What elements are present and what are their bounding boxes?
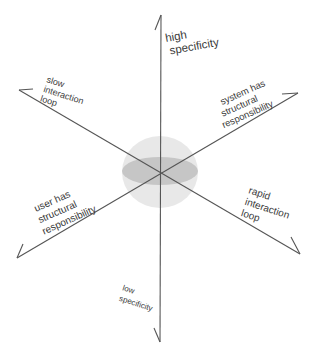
label-high-specificity: high specificity	[164, 23, 220, 57]
arrowhead-high-specificity	[155, 15, 161, 30]
arrowhead-slow-interaction	[19, 89, 33, 90]
label-system-structural: system has structural responsibility	[211, 77, 276, 130]
label-user-structural: user has structural responsibility	[31, 181, 98, 236]
label-slow-interaction: slow interaction loop	[39, 74, 88, 115]
axis-vertical	[160, 15, 161, 342]
label-rapid-interaction: rapid interaction loop	[240, 184, 295, 232]
label-low-specificity: low specificity	[118, 283, 157, 313]
label-line: specificity	[118, 294, 154, 313]
axis-structural-responsibility	[17, 93, 298, 258]
arrowhead-low-specificity	[154, 328, 160, 342]
specificity-interaction-responsibility-diagram: high specificity system has structural r…	[0, 0, 318, 357]
